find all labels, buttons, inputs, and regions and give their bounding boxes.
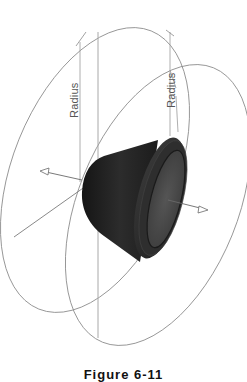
left-axis-arrow-shaft xyxy=(46,172,82,180)
figure-caption: Figure 6-11 xyxy=(0,367,247,382)
left-axis-arrowhead-icon xyxy=(40,168,49,175)
right-axis-arrowhead-icon xyxy=(198,206,208,213)
radius-right-label: Radius xyxy=(165,73,177,108)
flanged-cup-part xyxy=(82,133,197,264)
radius-left-tick xyxy=(76,32,86,46)
axis-line-lower xyxy=(14,186,86,237)
radius-left-label: Radius xyxy=(68,83,80,118)
